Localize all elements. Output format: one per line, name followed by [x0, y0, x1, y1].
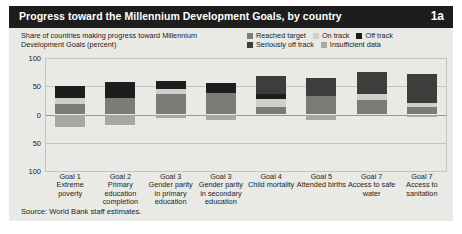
bar-segment-off-track: [256, 94, 286, 100]
bar-group[interactable]: [105, 58, 135, 171]
x-label-desc: Access to safe water: [347, 181, 397, 198]
bar-segment-seriously-off-track: [407, 74, 437, 103]
x-axis-category-label: Goal 3Gender parity in primary education: [146, 173, 196, 215]
legend-row: Reached targetOn trackOff track: [247, 31, 447, 40]
legend-item-reached-target[interactable]: Reached target: [247, 31, 306, 40]
bar-segment-off-track: [156, 81, 186, 89]
x-label-desc: Gender parity in primary education: [146, 181, 196, 206]
x-label-desc: Attended births: [296, 181, 346, 189]
x-axis-category-label: Goal 7Access to safe water: [347, 173, 397, 215]
gridline: [45, 171, 447, 172]
x-label-desc: Extreme poverty: [45, 181, 95, 198]
x-axis-category-label: Goal 4Child mortality: [246, 173, 296, 215]
legend-label: Off track: [365, 31, 392, 40]
legend-item-seriously-off-track[interactable]: Seriously off track: [247, 40, 314, 49]
plot-area: [45, 58, 447, 171]
chart-card: Progress toward the Millennium Developme…: [9, 6, 453, 221]
y-axis-caption: Share of countries making progress towar…: [21, 32, 236, 49]
chart-legend: Reached targetOn trackOff trackSeriously…: [247, 31, 447, 50]
x-label-desc: Child mortality: [246, 181, 296, 189]
x-label-desc: Access to sanitation: [397, 181, 447, 198]
legend-swatch-icon: [356, 33, 362, 39]
y-axis-tick-labels: 10050050100: [9, 58, 41, 171]
legend-item-on-track[interactable]: On track: [313, 31, 350, 40]
y-axis-tick-label: 100: [28, 54, 41, 63]
legend-swatch-icon: [313, 33, 319, 39]
legend-swatch-icon: [247, 33, 253, 39]
bar-segment-reached-target: [407, 107, 437, 114]
y-axis-tick-label: 0: [37, 110, 41, 119]
bar-segment-on-track: [156, 89, 186, 94]
bar-segment-reached-target: [357, 100, 387, 115]
bar-segment-reached-target: [55, 104, 85, 114]
bar-segment-insufficient-data: [407, 115, 437, 118]
bar-segment-off-track: [105, 82, 135, 97]
bar-group[interactable]: [256, 58, 286, 171]
bar-group[interactable]: [357, 58, 387, 171]
bar-group[interactable]: [55, 58, 85, 171]
x-label-desc: Primary education completion: [95, 181, 145, 206]
bar-segment-reached-target: [306, 96, 336, 115]
bar-group[interactable]: [156, 58, 186, 171]
bar-segment-reached-target: [105, 98, 135, 115]
bar-segment-on-track: [55, 98, 85, 105]
bar-segment-seriously-off-track: [357, 72, 387, 94]
legend-row: Seriously off trackInsufficient data: [247, 40, 447, 49]
bar-segment-off-track: [206, 83, 236, 93]
figure-number-badge: 1a: [431, 9, 444, 23]
y-axis-tick-label: 50: [33, 138, 41, 147]
bar-segment-reached-target: [156, 94, 186, 114]
legend-swatch-icon: [321, 42, 327, 48]
bar-segment-on-track: [256, 99, 286, 107]
bar-segment-reached-target: [256, 107, 286, 114]
x-axis-category-label: Goal 3Gender parity in secondary educati…: [196, 173, 246, 215]
bar-segment-seriously-off-track: [306, 78, 336, 96]
y-axis-tick-label: 100: [28, 167, 41, 176]
bar-segment-insufficient-data: [55, 115, 85, 127]
bar-group[interactable]: [206, 58, 236, 171]
bar-segment-insufficient-data: [156, 115, 186, 119]
x-axis-category-label: Goal 5Attended births: [296, 173, 346, 215]
bar-group[interactable]: [306, 58, 336, 171]
bar-segment-insufficient-data: [306, 115, 336, 121]
legend-item-off-track[interactable]: Off track: [356, 31, 392, 40]
legend-item-insufficient-data[interactable]: Insufficient data: [321, 40, 381, 49]
chart-title: Progress toward the Millennium Developme…: [19, 10, 342, 22]
bar-segment-on-track: [407, 103, 437, 108]
x-axis-category-label: Goal 7Access to sanitation: [397, 173, 447, 215]
source-note: Source: World Bank staff estimates.: [21, 207, 141, 216]
x-label-desc: Gender parity in secondary education: [196, 181, 246, 206]
bar-segment-reached-target: [206, 93, 236, 114]
legend-swatch-icon: [247, 42, 253, 48]
chart-title-bar: Progress toward the Millennium Developme…: [9, 6, 453, 28]
bar-segment-on-track: [357, 94, 387, 100]
bar-group[interactable]: [407, 58, 437, 171]
y-axis-tick-label: 50: [33, 82, 41, 91]
bar-segment-insufficient-data: [105, 115, 135, 126]
legend-label: On track: [322, 31, 350, 40]
legend-label: Reached target: [256, 31, 306, 40]
bar-segment-insufficient-data: [206, 115, 236, 120]
legend-label: Insufficient data: [330, 40, 381, 49]
bar-segment-off-track: [55, 86, 85, 97]
bar-segment-seriously-off-track: [256, 76, 286, 94]
legend-label: Seriously off track: [256, 40, 314, 49]
figure-panel: Progress toward the Millennium Developme…: [0, 0, 462, 234]
